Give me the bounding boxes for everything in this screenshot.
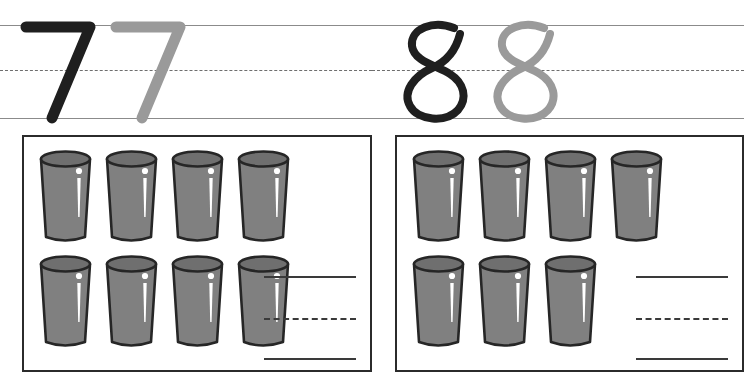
answer-baseline-left	[264, 358, 356, 360]
worksheet-page	[0, 0, 744, 392]
counting-box-right	[395, 135, 744, 372]
answer-baseline-right	[636, 358, 728, 360]
drinking-glass-icon	[477, 149, 532, 249]
answer-mid-line-right	[636, 318, 728, 320]
digit-eight-gray[interactable]	[484, 18, 580, 126]
tracing-band-left	[0, 0, 372, 130]
drinking-glass-icon	[411, 149, 466, 249]
digit-eight-dark[interactable]	[394, 18, 490, 126]
drinking-glass-icon	[236, 149, 291, 249]
drinking-glass-icon	[477, 254, 532, 354]
tracing-band-right	[372, 0, 744, 130]
drinking-glass-icon	[411, 254, 466, 354]
drinking-glass-icon	[104, 254, 159, 354]
digit-seven-dark[interactable]	[18, 18, 114, 126]
answer-mid-line-left	[264, 318, 356, 320]
digit-seven-gray[interactable]	[108, 18, 204, 126]
drinking-glass-icon	[38, 149, 93, 249]
answer-writing-lines-left[interactable]	[264, 268, 356, 360]
answer-top-line-right	[636, 276, 728, 278]
answer-writing-lines-right[interactable]	[636, 268, 728, 360]
drinking-glass-icon	[170, 149, 225, 249]
answer-top-line-left	[264, 276, 356, 278]
drinking-glass-icon	[609, 149, 664, 249]
drinking-glass-icon	[104, 149, 159, 249]
drinking-glass-icon	[543, 149, 598, 249]
drinking-glass-icon	[543, 254, 598, 354]
drinking-glass-icon	[170, 254, 225, 354]
drinking-glass-icon	[38, 254, 93, 354]
counting-box-left	[22, 135, 372, 372]
